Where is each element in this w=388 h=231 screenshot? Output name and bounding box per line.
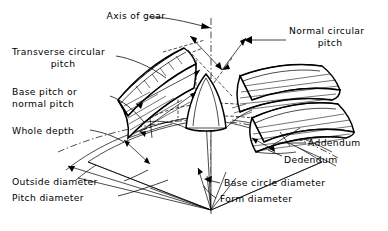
label-base-pitch-line2: normal pitch	[12, 98, 74, 110]
label-normal-circular-pitch-line2: pitch	[289, 37, 371, 49]
gear-nomenclature-figure: Axis of gear Normal circular pitch Trans…	[0, 0, 388, 231]
label-whole-depth: Whole depth	[12, 125, 74, 137]
label-addendum: Addendum	[308, 137, 361, 149]
label-pitch-diameter: Pitch diameter	[12, 192, 84, 204]
label-base-circle-diameter: Base circle diameter	[224, 177, 325, 189]
label-normal-circular-pitch-line1: Normal circular	[289, 25, 364, 37]
label-axis-of-gear: Axis of gear	[96, 10, 176, 22]
label-base-pitch-line1: Base pitch or	[12, 86, 77, 98]
label-form-diameter: Form diameter	[220, 193, 292, 205]
label-dedendum: Dedendum	[284, 154, 337, 166]
label-transverse-circular-pitch-line1: Transverse circular	[12, 46, 105, 58]
label-transverse-circular-pitch-line2: pitch	[12, 58, 114, 70]
normal-circular-pitch-dimension	[190, 36, 246, 70]
label-outside-diameter: Outside diameter	[12, 176, 98, 188]
